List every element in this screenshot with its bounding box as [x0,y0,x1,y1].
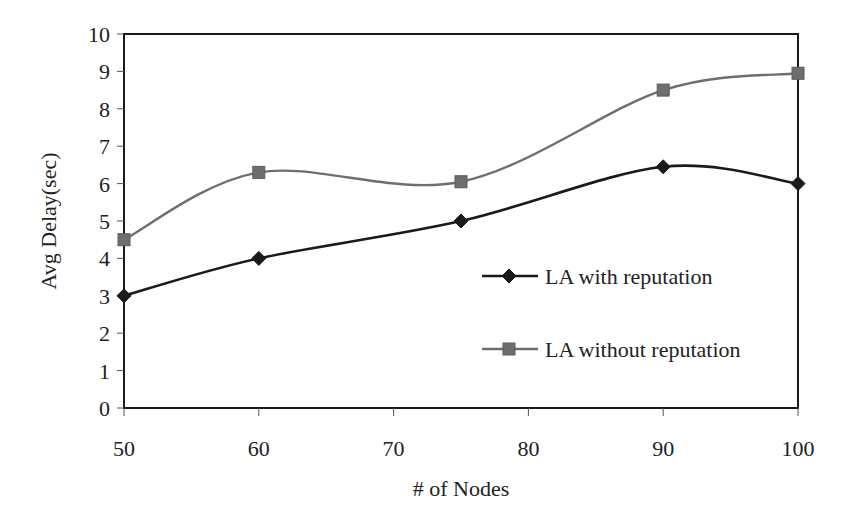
diamond-marker-icon [791,177,805,191]
diamond-marker-icon [454,214,468,228]
y-tick-label: 9 [99,59,110,84]
square-marker-icon [792,67,804,79]
square-marker-icon [455,176,467,188]
y-tick-label: 7 [99,134,110,159]
legend-item: LA without reputation [482,337,741,362]
y-tick-label: 0 [99,396,110,421]
x-tick-label: 70 [383,436,405,461]
square-marker-icon [657,84,669,96]
square-marker-icon [503,343,515,355]
x-tick-label: 90 [652,436,674,461]
y-tick-label: 8 [99,97,110,122]
y-tick-label: 4 [99,246,110,271]
diamond-marker-icon [252,251,266,265]
y-tick-label: 6 [99,172,110,197]
diamond-marker-icon [502,269,516,283]
x-tick-label: 60 [248,436,270,461]
x-tick-label: 100 [782,436,815,461]
legend-item: LA with reputation [482,264,712,289]
y-tick-label: 1 [99,359,110,384]
x-tick-label: 50 [113,436,135,461]
square-marker-icon [118,234,130,246]
y-axis-title: Avg Delay(sec) [36,152,61,289]
legend-label: LA with reputation [545,264,712,289]
x-tick-label: 80 [517,436,539,461]
y-tick-label: 10 [88,22,110,47]
x-axis: 5060708090100 [113,408,815,461]
diamond-marker-icon [117,289,131,303]
y-axis: 012345678910 [88,22,124,421]
legend-label: LA without reputation [545,337,741,362]
legend: LA with reputationLA without reputation [482,264,741,362]
y-tick-label: 3 [99,284,110,309]
square-marker-icon [253,166,265,178]
diamond-marker-icon [656,160,670,174]
y-tick-label: 2 [99,321,110,346]
line-chart: 012345678910 5060708090100 Avg Delay(sec… [0,0,851,523]
y-tick-label: 5 [99,209,110,234]
x-axis-title: # of Nodes [413,476,510,501]
